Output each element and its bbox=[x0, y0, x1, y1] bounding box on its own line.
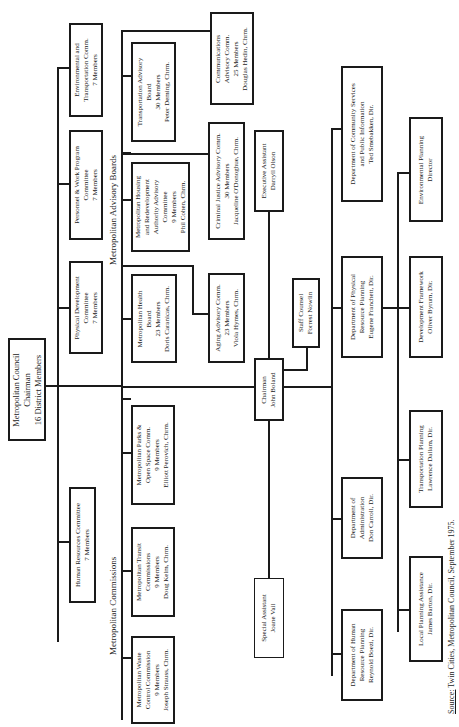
connector bbox=[306, 348, 308, 371]
box-text-line: Board bbox=[145, 58, 154, 126]
staff-counsel-box: Staff CounselForrest Nowlin bbox=[292, 278, 320, 348]
box-text: Metropolitan Housingand RedevelopmentAut… bbox=[134, 176, 188, 238]
physical-development-committee-box: Physical DevelopmentCommittee7 Members bbox=[69, 261, 103, 354]
connector bbox=[121, 265, 194, 267]
box-text-line: Phil Cohen, Chrm. bbox=[179, 176, 188, 238]
box-text: Metropolitan Parks &Open Space Comm.9 Me… bbox=[135, 422, 171, 487]
box-text-line: Department of Community Services bbox=[349, 83, 358, 184]
box-text-line: Joane Vail bbox=[269, 594, 278, 642]
connector bbox=[397, 609, 409, 611]
box-text-line: 23 Members bbox=[154, 285, 163, 351]
source-note: Source: Twin Cities, Metropolitan Counci… bbox=[447, 519, 456, 714]
box-text-line: Department of bbox=[349, 494, 358, 542]
box-text-line: 7 Members bbox=[91, 276, 100, 339]
box-text-line: 25 Members bbox=[232, 27, 241, 90]
box-text: Metropolitan HealthBoard23 MembersDoris … bbox=[136, 285, 172, 351]
environmental-planning-division-box: Environmental PlanningDirector bbox=[409, 117, 443, 222]
executive-assistant-box: Executive AssistantDarryll Olson bbox=[254, 130, 284, 212]
box-text-line: 9 Members bbox=[153, 543, 162, 601]
box-text-line: Peter Deming, Chrm. bbox=[163, 58, 172, 126]
human-resource-planning-department-box: Department of HumanResource PlanningReyn… bbox=[341, 609, 383, 701]
chairman-box: ChairmanJohn Boland bbox=[254, 358, 284, 421]
box-text: Department ofAdministrationDon Carroll, … bbox=[349, 494, 376, 542]
box-text-line: Metropolitan Housing bbox=[134, 176, 143, 238]
box-text-line: Development Framework bbox=[417, 271, 426, 343]
development-framework-division-box: Development FrameworkOliver Byrum, Dir. bbox=[409, 256, 443, 358]
box-text-line: Human Resources Committee bbox=[74, 503, 83, 587]
connector bbox=[121, 657, 131, 659]
connector bbox=[121, 386, 331, 388]
box-text-line: Forrest Nowlin bbox=[306, 292, 315, 335]
box-text-line: Physical Development bbox=[73, 276, 82, 339]
box-text-line: Resource Planning bbox=[358, 274, 367, 340]
box-text: Environmental PlanningDirector bbox=[417, 135, 435, 203]
commissions-label: Metropolitan Commissions bbox=[108, 557, 118, 655]
box-text-line: Doug Kelm, Chrm. bbox=[162, 543, 171, 601]
human-resources-committee-box: Human Resources Committee7 Members bbox=[69, 487, 96, 603]
box-text-line: Eugene Franchett, Dir. bbox=[367, 274, 376, 340]
connector bbox=[121, 30, 123, 720]
box-text-line: 7 Members bbox=[91, 38, 100, 102]
parks-open-space-commission-box: Metropolitan Parks &Open Space Comm.9 Me… bbox=[131, 405, 175, 505]
box-text-line: Director bbox=[426, 135, 435, 203]
box-text: Metropolitan WasteControl Commission9 Me… bbox=[135, 649, 171, 711]
box-text-line: Control Commission bbox=[144, 649, 153, 711]
council-role: Chairman bbox=[22, 353, 33, 426]
metropolitan-council-box: Metropolitan Council Chairman 16 Distric… bbox=[8, 338, 46, 441]
connector bbox=[397, 172, 399, 632]
box-text: Special AssistantJoane Vail bbox=[260, 594, 278, 642]
environmental-transportation-committee-box: Environmental andTransportation Comm.7 M… bbox=[69, 23, 103, 117]
box-text-line: 9 Members bbox=[153, 422, 162, 487]
box-text-line: Oliver Byrum, Dir. bbox=[426, 271, 435, 343]
box-text-line: Metropolitan Health bbox=[136, 285, 145, 351]
connector bbox=[397, 172, 409, 174]
connector bbox=[121, 452, 131, 454]
box-text-line: Doris Caranicas, Chrm. bbox=[163, 285, 172, 351]
transit-commission-box: Metropolitan TransitCommissions9 Members… bbox=[131, 527, 175, 617]
council-title: Metropolitan Council bbox=[11, 353, 22, 426]
box-text-line: Transportation Comm. bbox=[82, 38, 91, 102]
advisory-boards-label: Metropolitan Advisory Boards bbox=[108, 155, 118, 265]
box-text-line: Jacqueline O'Donoghue, Chrm. bbox=[231, 133, 240, 229]
box-text-line: and Redevelopment bbox=[143, 176, 152, 238]
box-text-line: Transportation Planning bbox=[417, 425, 426, 493]
box-text-line: Advisory Comm. bbox=[223, 27, 232, 90]
administration-department-box: Department ofAdministrationDon Carroll, … bbox=[341, 477, 383, 559]
box-text: Physical DevelopmentCommittee7 Members bbox=[73, 276, 100, 339]
box-text-line: Department of Physical bbox=[349, 274, 358, 340]
box-text: Development FrameworkOliver Byrum, Dir. bbox=[417, 271, 435, 343]
box-text-line: Committee bbox=[82, 276, 91, 339]
box-text-line: Elliott Perovich, Chrm. bbox=[162, 422, 171, 487]
box-text-line: Special Assistant bbox=[260, 594, 269, 642]
box-text: Environmental andTransportation Comm.7 M… bbox=[73, 38, 100, 102]
box-text: CommunicationsAdvisory Comm.25 MembersDo… bbox=[214, 27, 250, 90]
box-text-line: Staff Counsel bbox=[297, 292, 306, 335]
source-prefix: Source: bbox=[447, 690, 456, 714]
box-text: Department of Community Servicesand Publ… bbox=[349, 83, 376, 184]
criminal-justice-advisory-committee-box: Criminal Justice Advisory Comm.30 Member… bbox=[208, 122, 245, 240]
box-text-line: Communications bbox=[214, 27, 223, 90]
box-text: Local Planning AssistanceJames Barton, D… bbox=[417, 572, 435, 646]
box-text-line: Metropolitan Transit bbox=[135, 543, 144, 601]
connector bbox=[121, 199, 131, 201]
personnel-work-program-committee-box: Personnel & Work ProgramCommittee7 Membe… bbox=[69, 130, 103, 240]
box-text-line: Committee bbox=[82, 146, 91, 224]
box-text-line: Open Space Comm. bbox=[144, 422, 153, 487]
waste-control-commission-box: Metropolitan WasteControl Commission9 Me… bbox=[131, 636, 175, 724]
connector bbox=[121, 570, 131, 572]
special-assistant-box: Special AssistantJoane Vail bbox=[254, 578, 284, 658]
connector bbox=[192, 265, 194, 315]
local-planning-assistance-division-box: Local Planning AssistanceJames Barton, D… bbox=[409, 556, 443, 662]
box-text: Criminal Justice Advisory Comm.30 Member… bbox=[213, 133, 240, 229]
box-text-line: and Public Information bbox=[358, 83, 367, 184]
box-text: Personnel & Work ProgramCommittee7 Membe… bbox=[73, 146, 100, 224]
box-text: Staff CounselForrest Nowlin bbox=[297, 292, 315, 335]
box-text-line: Administration bbox=[358, 494, 367, 542]
box-text: Aging Advisory Comm.23 MembersViola Hyme… bbox=[213, 284, 240, 351]
box-text-line: Reynold Boezi, Dir. bbox=[367, 624, 376, 687]
box-text-line: Don Carroll, Dir. bbox=[367, 494, 376, 542]
box-text-line: Environmental Planning bbox=[417, 135, 426, 203]
box-text-line: Local Planning Assistance bbox=[417, 572, 426, 646]
box-text: Transportation AdvisoryBoard30 MembersPe… bbox=[136, 58, 172, 126]
box-text-line: Committee bbox=[161, 176, 170, 238]
